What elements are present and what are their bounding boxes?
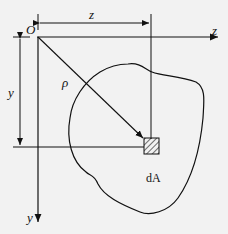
radius-label: ρ — [62, 76, 68, 89]
element-label: dA — [146, 172, 161, 184]
axis-z-label: z — [212, 24, 217, 37]
axis-y-label: y — [27, 211, 33, 224]
rho-vector — [38, 37, 143, 138]
area-element-dA — [144, 138, 159, 154]
origin-label: O — [26, 23, 35, 36]
dim-y-label: y — [8, 86, 14, 99]
dim-z-label: z — [89, 8, 94, 21]
